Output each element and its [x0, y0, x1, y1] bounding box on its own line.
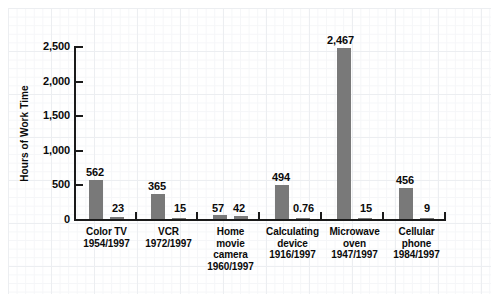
- bar-microwave-oven-1947: [337, 48, 351, 219]
- bar-value-vcr-1997: 15: [174, 202, 186, 214]
- x-separator-tick-5: [382, 212, 384, 220]
- category-line: phone: [370, 238, 463, 250]
- y-axis-line: [74, 46, 76, 221]
- y-tick-label-2000: 2,000: [8, 75, 70, 87]
- bar-vcr-1997: [172, 218, 186, 219]
- bar-color-tv-1954: [89, 180, 103, 219]
- y-tick-1500: [76, 115, 83, 117]
- bar-value-microwave-oven-1947: 2,467: [327, 34, 354, 46]
- category-line: 1984/1997: [370, 249, 463, 261]
- bar-value-cellular-phone-1997: 9: [424, 202, 430, 214]
- chart-figure: Hours of Work Time 0 500 1,000 1,500 2,0…: [0, 0, 499, 302]
- bar-value-vcr-1972: 365: [148, 180, 166, 192]
- bar-value-color-tv-1997: 23: [112, 202, 124, 214]
- category-label-cellular-phone: Cellular phone 1984/1997: [370, 226, 463, 261]
- bar-value-microwave-oven-1997: 15: [360, 202, 372, 214]
- bar-vcr-1972: [151, 194, 165, 219]
- bar-value-color-tv-1954: 562: [86, 166, 104, 178]
- bar-calculating-device-1916: [275, 185, 289, 219]
- bar-color-tv-1997: [110, 217, 124, 219]
- bar-home-movie-camera-1997: [234, 216, 248, 219]
- category-line: Cellular: [370, 226, 463, 238]
- bar-cellular-phone-1984: [399, 188, 413, 219]
- y-tick-2000: [76, 81, 83, 83]
- bar-cellular-phone-1997: [420, 218, 434, 219]
- bar-value-calculating-device-1997: 0.76: [293, 202, 314, 214]
- x-separator-tick-1: [135, 212, 137, 220]
- bar-calculating-device-1997: [296, 218, 310, 219]
- x-separator-tick-3: [258, 212, 260, 220]
- category-line: 1960/1997: [184, 261, 277, 273]
- bar-value-calculating-device-1916: 494: [272, 171, 290, 183]
- x-axis-line: [74, 219, 446, 221]
- y-tick-label-500: 500: [8, 178, 70, 190]
- bar-microwave-oven-1997: [358, 218, 372, 219]
- bar-value-cellular-phone-1984: 456: [396, 174, 414, 186]
- plot-area: Hours of Work Time 0 500 1,000 1,500 2,0…: [0, 0, 499, 302]
- y-tick-label-2500: 2,500: [8, 40, 70, 52]
- bar-value-home-movie-camera-1997: 42: [233, 202, 245, 214]
- x-separator-tick-6: [444, 212, 446, 220]
- y-tick-label-1500: 1,500: [8, 109, 70, 121]
- y-tick-0: [76, 219, 83, 221]
- x-separator-tick-4: [320, 212, 322, 220]
- y-tick-label-0: 0: [8, 213, 70, 225]
- bar-value-home-movie-camera-1960: 57: [212, 202, 224, 214]
- bar-home-movie-camera-1960: [213, 215, 227, 219]
- x-separator-tick-2: [196, 212, 198, 220]
- y-tick-500: [76, 184, 83, 186]
- y-tick-1000: [76, 150, 83, 152]
- y-tick-2500: [76, 46, 83, 48]
- y-tick-label-1000: 1,000: [8, 144, 70, 156]
